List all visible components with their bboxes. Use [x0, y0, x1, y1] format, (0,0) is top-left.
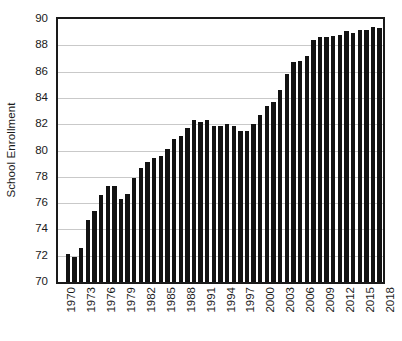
- bar: [92, 211, 96, 282]
- bar: [258, 115, 262, 282]
- bar: [358, 30, 362, 282]
- y-tick-label: 76: [35, 196, 48, 208]
- bar: [271, 102, 275, 282]
- bar: [139, 168, 143, 282]
- x-tick-label: 2015: [358, 274, 370, 298]
- bar: [72, 257, 76, 282]
- bar: [232, 126, 236, 282]
- x-tick-label: 2018: [378, 274, 390, 298]
- x-tick-label: 1970: [59, 274, 71, 298]
- bar: [318, 37, 322, 282]
- bar: [159, 156, 163, 282]
- y-tick-label: 90: [35, 12, 48, 24]
- bar: [377, 28, 381, 282]
- bar: [106, 186, 110, 282]
- y-tick-label: 84: [35, 91, 48, 103]
- bar: [185, 128, 189, 282]
- bar: [245, 131, 249, 282]
- x-tick-label: 1991: [199, 274, 211, 298]
- bar: [291, 62, 295, 282]
- bar: [351, 33, 355, 282]
- bar: [344, 31, 348, 282]
- x-tick-label: 2012: [338, 274, 350, 298]
- y-tick-label: 70: [35, 275, 48, 287]
- y-tick-label: 78: [35, 170, 48, 182]
- x-tick-label: 1979: [119, 274, 131, 298]
- x-tick-label: 2009: [318, 274, 330, 298]
- y-tick-label: 72: [35, 249, 48, 261]
- bar: [99, 195, 103, 282]
- school-enrollment-bar-chart: School Enrollment 7072747678808284868890…: [0, 0, 402, 341]
- y-tick-label: 88: [35, 38, 48, 50]
- bar: [205, 120, 209, 282]
- bar: [225, 124, 229, 282]
- bar: [172, 139, 176, 282]
- x-tick-label: 1985: [159, 274, 171, 298]
- y-tick-label: 82: [35, 117, 48, 129]
- bar: [152, 158, 156, 282]
- x-tick-label: 1997: [238, 274, 250, 298]
- x-tick-label: 1994: [219, 274, 231, 298]
- bar: [251, 124, 255, 282]
- y-axis-title: School Enrollment: [0, 0, 22, 300]
- bar: [132, 178, 136, 282]
- bar: [192, 120, 196, 282]
- bar: [331, 36, 335, 282]
- bar: [265, 106, 269, 282]
- bar: [165, 149, 169, 282]
- bar: [338, 35, 342, 282]
- bar: [305, 56, 309, 282]
- bar: [285, 74, 289, 282]
- bar: [278, 90, 282, 282]
- bar: [212, 126, 216, 282]
- bar: [179, 136, 183, 282]
- y-axis-tick-labels: 7072747678808284868890: [22, 18, 52, 283]
- x-tick-label: 1973: [79, 274, 91, 298]
- bar: [298, 61, 302, 282]
- y-axis-title-text: School Enrollment: [5, 102, 17, 197]
- x-axis-tick-labels: 1970197319761979198219851988199119941997…: [56, 286, 385, 341]
- x-tick-label: 1988: [179, 274, 191, 298]
- x-tick-label: 2003: [278, 274, 290, 298]
- bars-layer: [58, 19, 383, 282]
- bar: [125, 194, 129, 282]
- y-tick-label: 74: [35, 222, 48, 234]
- bar: [112, 186, 116, 282]
- y-tick-label: 80: [35, 144, 48, 156]
- x-tick-label: 1976: [99, 274, 111, 298]
- x-tick-label: 2006: [298, 274, 310, 298]
- bar: [311, 40, 315, 282]
- x-tick-label: 1982: [139, 274, 151, 298]
- bar: [238, 131, 242, 282]
- bar: [324, 37, 328, 282]
- bar: [119, 199, 123, 282]
- bar: [218, 126, 222, 282]
- bar: [371, 27, 375, 282]
- plot-area: [56, 17, 385, 284]
- bar: [145, 162, 149, 282]
- bar: [364, 30, 368, 282]
- y-tick-label: 86: [35, 65, 48, 77]
- bar: [198, 122, 202, 282]
- bar: [86, 220, 90, 282]
- x-tick-label: 2000: [258, 274, 270, 298]
